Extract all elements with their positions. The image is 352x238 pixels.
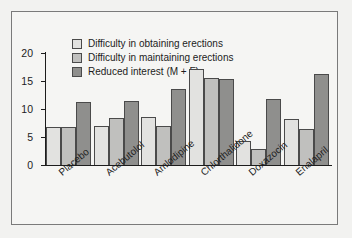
figure: Difficulty in obtaining erections Diffic… — [0, 0, 352, 238]
y-tick: 0 — [41, 165, 46, 166]
bar — [189, 69, 204, 165]
bar — [141, 117, 156, 165]
legend-label-0: Difficulty in obtaining erections — [88, 39, 223, 49]
y-tick-label: 5 — [27, 132, 33, 143]
y-tick: 5 — [41, 137, 46, 138]
y-tick: 20 — [41, 53, 46, 54]
y-tick: 10 — [41, 109, 46, 110]
y-tick-label: 0 — [27, 160, 33, 171]
y-tick-label: 15 — [21, 76, 33, 87]
y-tick-label: 10 — [21, 104, 33, 115]
legend-item-0: Difficulty in obtaining erections — [72, 37, 233, 50]
y-tick: 15 — [41, 81, 46, 82]
bar — [94, 126, 109, 165]
x-axis-line — [45, 165, 332, 166]
bar — [204, 78, 219, 165]
bar — [46, 127, 61, 165]
y-tick-label: 20 — [21, 48, 33, 59]
legend-swatch-icon-0 — [72, 39, 82, 49]
bar — [284, 119, 299, 165]
